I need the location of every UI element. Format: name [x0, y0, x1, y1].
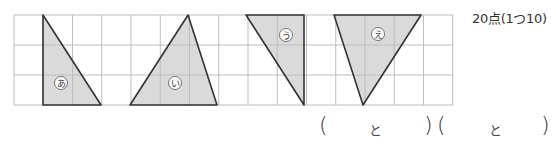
answer-1-connector: と: [369, 120, 382, 139]
triangle-label: え: [374, 30, 383, 40]
triangle-label: い: [171, 79, 180, 89]
answer-1-open-paren: (: [319, 112, 328, 137]
answer-2-close-paren: ): [541, 112, 550, 137]
answer-2-connector: と: [489, 120, 502, 139]
triangle-label: う: [282, 31, 291, 41]
score-label: 20点(1つ10): [472, 8, 547, 27]
triangle-2-fill: [130, 15, 217, 105]
triangle-label: あ: [57, 79, 66, 89]
answer-2-open-paren: (: [437, 112, 446, 137]
answer-1-close-paren: ): [424, 112, 433, 137]
triangle-grid-figure: あいうえ: [0, 0, 460, 110]
